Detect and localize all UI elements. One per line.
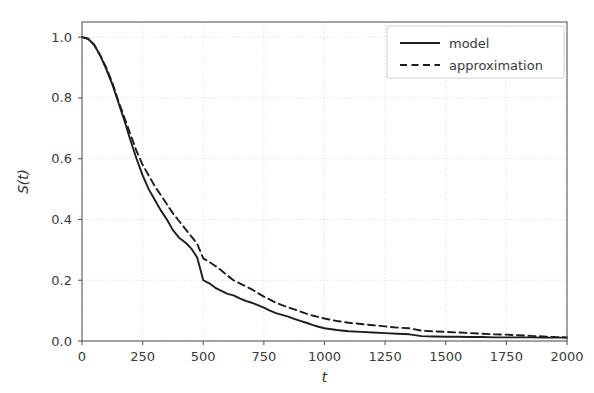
y-tick-label: 0.4 — [51, 212, 72, 227]
legend-label-approximation: approximation — [449, 58, 543, 73]
x-tick-label: 0 — [78, 349, 86, 364]
x-axis-title: t — [322, 369, 328, 385]
x-tick-label: 1750 — [490, 349, 523, 364]
x-tick-label: 1500 — [429, 349, 462, 364]
y-tick-label: 1.0 — [51, 30, 72, 45]
x-tick-label: 1250 — [369, 349, 402, 364]
chart-legend: modelapproximation — [387, 26, 564, 78]
x-tick-label: 500 — [191, 349, 216, 364]
y-tick-label: 0.0 — [51, 334, 72, 349]
x-tick-label: 750 — [251, 349, 276, 364]
chart-figure: 025050075010001250150017502000 0.00.20.4… — [0, 0, 594, 393]
x-tick-label: 250 — [130, 349, 155, 364]
survival-curve-chart: 025050075010001250150017502000 0.00.20.4… — [0, 0, 594, 393]
legend-label-model: model — [449, 36, 489, 51]
x-tick-labels: 025050075010001250150017502000 — [78, 349, 584, 364]
y-tick-label: 0.6 — [51, 151, 72, 166]
x-tick-label: 1000 — [308, 349, 341, 364]
y-tick-label: 0.2 — [51, 273, 72, 288]
x-tick-label: 2000 — [550, 349, 583, 364]
y-axis-title: S(t) — [15, 169, 31, 193]
y-tick-label: 0.8 — [51, 90, 72, 105]
